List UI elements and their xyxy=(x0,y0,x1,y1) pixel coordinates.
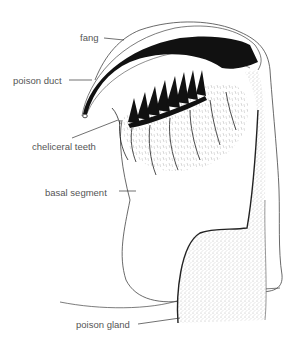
label-basal-segment: basal segment xyxy=(45,188,107,198)
label-cheliceral-teeth: cheliceral teeth xyxy=(32,142,96,152)
fang-leader xyxy=(104,38,124,40)
fang-tip xyxy=(83,114,88,118)
label-fang: fang xyxy=(80,33,99,43)
label-poison-gland: poison gland xyxy=(76,320,130,330)
poison-gland-leader xyxy=(138,318,180,324)
cheliceral-teeth-leader xyxy=(72,120,118,138)
chelicera-diagram xyxy=(0,0,307,349)
label-poison-duct: poison duct xyxy=(13,76,62,86)
